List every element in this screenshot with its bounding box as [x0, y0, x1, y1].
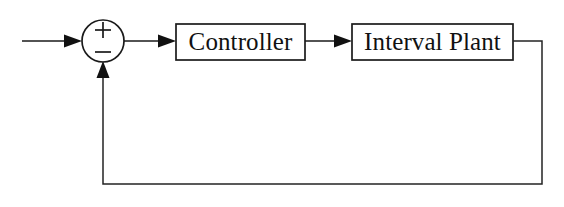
control-signal	[305, 35, 352, 48]
error-signal	[124, 35, 176, 48]
control-signal-arrowhead	[334, 35, 352, 48]
feedback-signal-line	[103, 41, 542, 184]
controller-block-label: Controller	[189, 28, 293, 55]
error-signal-arrowhead	[158, 35, 176, 48]
reference-input-arrowhead	[64, 35, 82, 48]
block-diagram-canvas: Controller Interval Plant	[0, 0, 564, 207]
interval-plant-block-label: Interval Plant	[364, 28, 501, 55]
interval-plant-block[interactable]: Interval Plant	[352, 24, 513, 60]
controller-block[interactable]: Controller	[176, 24, 305, 60]
reference-input-signal	[22, 35, 82, 48]
summing-junction	[82, 20, 124, 62]
feedback-signal-arrowhead	[97, 61, 110, 78]
control-loop-diagram: Controller Interval Plant	[0, 0, 564, 207]
feedback-signal-path	[97, 41, 543, 184]
